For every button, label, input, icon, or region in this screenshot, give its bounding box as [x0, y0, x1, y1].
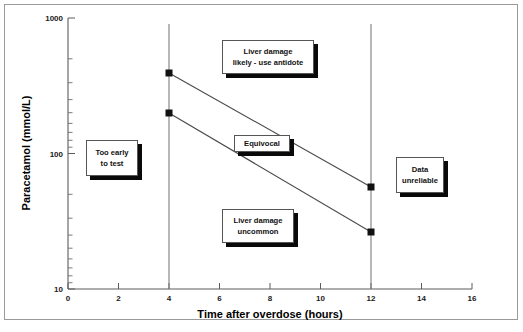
x-axis-ticks — [68, 283, 472, 289]
data-point-lower-start — [166, 110, 173, 117]
callout-liver-likely-line2: likely - use antidote — [233, 57, 303, 68]
callout-liver-uncommon-line2: uncommon — [238, 226, 279, 237]
callout-liver-damage-likely: Liver damage likely - use antidote — [222, 40, 314, 74]
callout-data-unreliable: Data unreliable — [396, 157, 444, 193]
y-tick-label-100: 100 — [50, 150, 64, 159]
x-tick-label-2: 2 — [116, 294, 121, 303]
x-tick-label-10: 10 — [316, 294, 325, 303]
callout-data-unreliable-line2: unreliable — [402, 175, 438, 186]
y-axis-title: Paracetamol (mmol/L) — [20, 95, 32, 210]
x-tick-label-4: 4 — [167, 294, 172, 303]
x-tick-label-16: 16 — [468, 294, 477, 303]
chart-page: 1000 100 10 0 2 4 6 8 10 12 14 16 Time a… — [0, 0, 523, 332]
data-point-upper-end — [368, 184, 375, 191]
data-point-upper-start — [166, 70, 173, 77]
callout-too-early-line2: to test — [101, 158, 124, 169]
callout-equivocal: Equivocal — [234, 135, 290, 152]
x-tick-label-12: 12 — [367, 294, 376, 303]
callout-data-unreliable-line1: Data — [412, 164, 428, 175]
callout-liver-likely-line1: Liver damage — [244, 46, 293, 57]
series-line-upper — [169, 73, 371, 187]
data-point-lower-end — [368, 229, 375, 236]
x-tick-label-6: 6 — [217, 294, 222, 303]
callout-too-early-line1: Too early — [95, 147, 128, 158]
callout-liver-damage-uncommon: Liver damage uncommon — [222, 209, 294, 243]
callout-liver-uncommon-line1: Liver damage — [234, 215, 283, 226]
x-tick-label-8: 8 — [268, 294, 273, 303]
x-tick-label-0: 0 — [66, 294, 71, 303]
callout-equivocal-line1: Equivocal — [244, 138, 280, 149]
y-axis-minor-ticks — [68, 59, 73, 283]
x-axis-title: Time after overdose (hours) — [197, 308, 343, 320]
callout-too-early: Too early to test — [86, 140, 138, 176]
x-tick-label-14: 14 — [417, 294, 426, 303]
y-tick-label-1000: 1000 — [45, 14, 63, 23]
y-tick-label-10: 10 — [54, 285, 63, 294]
